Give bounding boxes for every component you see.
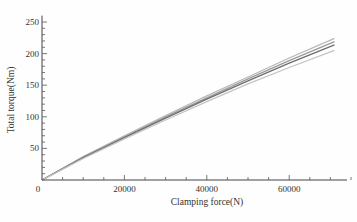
y-tick-label: 50 <box>30 143 40 153</box>
chart: 501001502002500200004000060000 Total tor… <box>0 0 357 222</box>
y-tick-label: 100 <box>26 112 40 122</box>
x-axis-title: Clamping force(N) <box>171 197 244 208</box>
y-tick-label: 150 <box>26 80 40 90</box>
y-tick-label: 250 <box>26 17 40 27</box>
x-tick-label: 0 <box>36 184 41 194</box>
x-tick-label: 20000 <box>113 184 136 194</box>
x-tick-label: 40000 <box>196 184 219 194</box>
series-line <box>42 50 335 180</box>
y-axis-title: Total torque(Nm) <box>6 67 17 134</box>
series-line <box>42 45 335 180</box>
plot-lines <box>42 38 335 180</box>
y-tick-label: 200 <box>26 49 40 59</box>
x-tick-label: 60000 <box>278 184 301 194</box>
